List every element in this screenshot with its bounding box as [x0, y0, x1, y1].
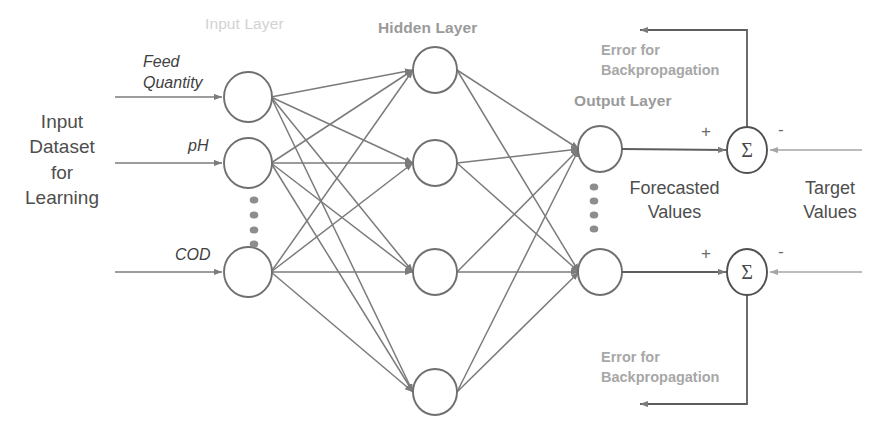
output-to-sum-top	[622, 149, 726, 150]
output-layer-title: Output Layer	[574, 92, 672, 110]
error-backpropagation-label-bottom: Error for Backpropagation	[601, 348, 719, 387]
forecasted-values-label: Forecasted Values	[617, 177, 732, 225]
input-to-hidden-edges	[271, 70, 413, 392]
sigma-glyph-bottom: Σ	[741, 261, 753, 283]
error-backpropagation-label-top: Error for Backpropagation	[601, 41, 719, 80]
hidden-node-3[interactable]	[413, 249, 457, 295]
hidden-node-4[interactable]	[413, 369, 457, 415]
sigma-glyph-top: Σ	[741, 139, 753, 161]
feature-label-cod: COD	[175, 245, 211, 266]
input-layer-nodes	[224, 72, 272, 297]
hidden-layer-title: Hidden Layer	[378, 19, 477, 37]
output-node-2[interactable]	[578, 249, 622, 295]
plus-sign-top: +	[701, 122, 711, 142]
network-graphics: Σ Σ	[0, 0, 892, 435]
neural-network-diagram: Σ Σ Input Layer Hidden Layer Output Laye…	[0, 0, 892, 435]
minus-sign-bottom: -	[778, 242, 784, 262]
input-node-feed-quantity[interactable]	[224, 72, 272, 122]
output-layer-ellipsis	[590, 183, 599, 232]
hidden-node-2[interactable]	[413, 140, 457, 186]
input-dataset-label: Input Dataset for Learning	[8, 109, 116, 210]
input-node-ph[interactable]	[224, 138, 272, 188]
feature-label-feed-quantity: Feed Quantity	[143, 52, 203, 94]
input-layer-title: Input Layer	[205, 15, 284, 33]
feature-label-ph: pH	[188, 136, 208, 157]
hidden-to-output-edges	[457, 70, 579, 392]
input-layer-ellipsis	[250, 196, 259, 247]
hidden-node-1[interactable]	[413, 47, 457, 93]
input-node-cod[interactable]	[224, 247, 272, 297]
output-node-1[interactable]	[578, 126, 622, 172]
output-layer-nodes	[578, 126, 622, 295]
target-values-label: Target Values	[785, 177, 875, 225]
minus-sign-top: -	[778, 120, 784, 140]
plus-sign-bottom: +	[701, 244, 711, 264]
hidden-layer-nodes	[413, 47, 457, 415]
